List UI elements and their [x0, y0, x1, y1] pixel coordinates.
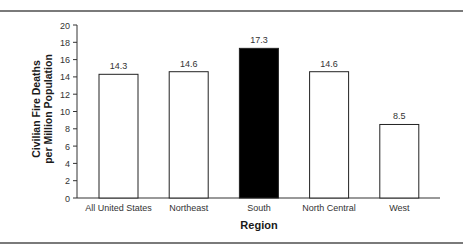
y-tick-label: 18 [60, 38, 70, 48]
y-tick-label: 8 [65, 124, 70, 134]
y-tick-label: 16 [60, 55, 70, 65]
bars: 14.3All United States14.6Northeast17.3So… [85, 35, 419, 213]
x-tick-label: West [389, 203, 410, 213]
bar-value-label: 14.6 [180, 59, 198, 69]
bar-value-label: 8.5 [393, 111, 406, 121]
x-tick-label: Northeast [169, 203, 209, 213]
bar-west [380, 124, 419, 198]
y-tick-label: 10 [60, 107, 70, 117]
y-tick-label: 12 [60, 90, 70, 100]
bar-value-label: 14.3 [110, 61, 128, 71]
y-tick-label: 4 [65, 159, 70, 169]
y-tick-label: 0 [65, 194, 70, 204]
x-tick-label: North Central [302, 203, 356, 213]
y-tick-label: 2 [65, 176, 70, 186]
x-tick-label: South [247, 203, 271, 213]
bar-chart: 02468101214161820 14.3All United States1… [0, 0, 475, 249]
bar-northeast [169, 72, 208, 198]
y-tick-label: 20 [60, 21, 70, 31]
x-axis-title: Region [240, 219, 278, 231]
y-tick-label: 14 [60, 72, 70, 82]
bar-value-label: 17.3 [250, 35, 268, 45]
bar-south [239, 48, 278, 198]
bar-value-label: 14.6 [320, 59, 338, 69]
bar-all-united-states [99, 74, 138, 198]
y-tick-label: 6 [65, 142, 70, 152]
x-tick-label: All United States [85, 203, 152, 213]
y-axis: 02468101214161820 [60, 21, 77, 204]
y-axis-title-line1: Civilian Fire Deaths [30, 60, 42, 158]
y-axis-title-line2: per Million Population [42, 54, 54, 164]
bar-north-central [310, 72, 349, 198]
